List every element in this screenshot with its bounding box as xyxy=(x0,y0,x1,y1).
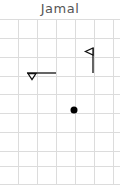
grid-lines xyxy=(0,19,120,185)
flag-symbol xyxy=(86,48,94,73)
dot-symbol xyxy=(71,107,78,114)
grid-canvas xyxy=(0,0,120,193)
